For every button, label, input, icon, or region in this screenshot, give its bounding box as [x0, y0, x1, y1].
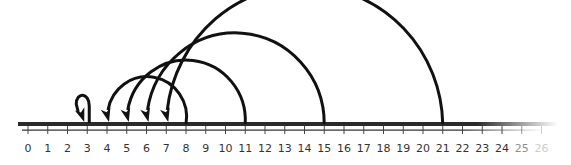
jump-3-to-3 [75, 95, 89, 123]
arrowhead-icon [121, 107, 131, 122]
tick-label: 9 [202, 142, 209, 155]
tick-label: 7 [163, 142, 170, 155]
tick-label: 21 [436, 142, 450, 155]
arrowhead-icon [140, 107, 150, 122]
tick-label: 0 [25, 142, 32, 155]
tick-label: 19 [396, 142, 410, 155]
tick-label: 11 [238, 142, 252, 155]
tick-label: 6 [143, 142, 150, 155]
tick-label: 23 [475, 142, 489, 155]
tick-label: 24 [495, 142, 509, 155]
number-line-diagram: 0123456789101112131415161718192021222324… [0, 0, 571, 165]
tick-label: 26 [535, 142, 549, 155]
arrowhead-icon [160, 107, 170, 122]
jump-11-to-5 [121, 60, 246, 124]
axis-thick-line [18, 122, 558, 126]
tick-label: 25 [515, 142, 529, 155]
tick-labels: 0123456789101112131415161718192021222324… [25, 142, 549, 155]
tick-label: 5 [123, 142, 130, 155]
tick-label: 22 [456, 142, 470, 155]
tick-label: 3 [84, 142, 91, 155]
axis-thin-line [22, 130, 542, 131]
tick-label: 18 [377, 142, 391, 155]
tick-label: 10 [219, 142, 233, 155]
arrowhead-icon [101, 107, 111, 122]
tick-label: 8 [183, 142, 190, 155]
tick-label: 17 [357, 142, 371, 155]
tick-label: 2 [64, 142, 71, 155]
tick-label: 13 [278, 142, 292, 155]
tick-label: 12 [258, 142, 272, 155]
jump-arcs [75, 0, 443, 124]
tick-label: 16 [337, 142, 351, 155]
tick-label: 14 [298, 142, 312, 155]
tick-label: 4 [104, 142, 111, 155]
tick-label: 15 [317, 142, 331, 155]
jump-arc [167, 0, 443, 124]
tick-label: 1 [44, 142, 51, 155]
tick-label: 20 [416, 142, 430, 155]
